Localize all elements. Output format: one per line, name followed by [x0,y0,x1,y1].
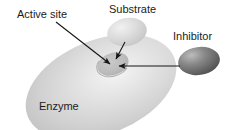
label-enzyme: Enzyme [39,100,79,112]
enzyme-inhibition-diagram: Active site Substrate Inhibitor Enzyme [0,0,233,130]
label-inhibitor: Inhibitor [173,30,212,42]
label-active-site: Active site [17,8,67,20]
inhibitor-shape [176,44,221,78]
label-substrate: Substrate [109,3,156,15]
